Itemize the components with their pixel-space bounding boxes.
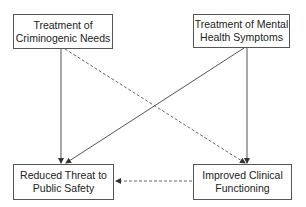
node-label-line2: Health Symptoms [200,31,283,43]
node-label-line1: Treatment of Mental [195,18,289,30]
node-label-line2: Public Safety [33,182,94,194]
node-label-line2: Functioning [215,182,269,194]
node-criminogenic-needs: Treatment ofCriminogenic Needs [13,14,113,49]
node-label-line2: Criminogenic Needs [16,32,111,44]
node-label-line1: Treatment of [33,19,92,31]
node-label-line1: Reduced Threat to [20,169,107,181]
node-public-safety: Reduced Threat toPublic Safety [13,164,114,200]
node-clinical-functioning: Improved ClinicalFunctioning [193,164,292,200]
node-label-line1: Improved Clinical [202,169,283,181]
node-mental-health: Treatment of MentalHealth Symptoms [193,14,290,48]
